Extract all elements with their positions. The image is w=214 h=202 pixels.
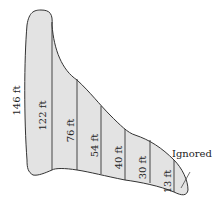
label-122ft: 122 ft [37, 96, 48, 136]
label-76ft: 76 ft [65, 111, 76, 151]
annotation-ignored: Ignored [172, 148, 212, 159]
label-13ft: 13 ft [162, 162, 173, 202]
label-40ft: 40 ft [113, 138, 124, 178]
label-30ft: 30 ft [137, 148, 148, 188]
label-146ft: 146 ft [11, 81, 22, 121]
region-diagram [0, 0, 214, 202]
label-54ft: 54 ft [89, 126, 100, 166]
